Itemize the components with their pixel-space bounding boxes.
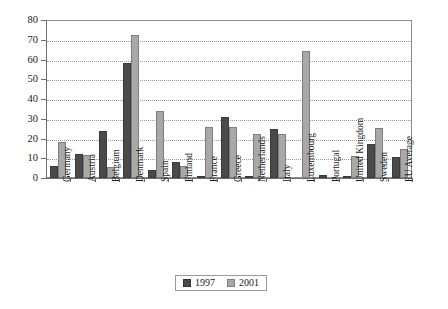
category-label-denmark: Denmark bbox=[135, 147, 145, 182]
y-axis-tick-label: 70 bbox=[0, 34, 38, 45]
category-label-portugal: Portugal bbox=[331, 150, 341, 182]
y-axis-tick-label: 40 bbox=[0, 93, 38, 104]
bar-1997-eu-average bbox=[392, 157, 400, 178]
category-label-united-kingdom: United Kingdom bbox=[355, 118, 365, 182]
bar-1997-netherlands bbox=[245, 176, 253, 178]
legend-item-2001: 2001 bbox=[227, 278, 259, 288]
legend-label-2001: 2001 bbox=[239, 278, 259, 288]
y-axis-tick-label: 20 bbox=[0, 133, 38, 144]
bar-1997-united-kingdom bbox=[343, 176, 351, 178]
legend-swatch-1997 bbox=[183, 279, 191, 287]
bar-1997-belgium bbox=[99, 131, 107, 178]
y-axis-tick-label: 80 bbox=[0, 14, 38, 25]
category-label-netherlands: Netherlands bbox=[257, 136, 267, 182]
y-axis-tick-label: 60 bbox=[0, 54, 38, 65]
category-label-finland: Finland bbox=[184, 153, 194, 182]
legend-item-1997: 1997 bbox=[183, 278, 215, 288]
category-label-austria: Austria bbox=[87, 154, 97, 182]
y-axis-tick-label: 0 bbox=[0, 172, 38, 183]
bar-chart: 01020304050607080 GermanyAustriaBelgiumD… bbox=[0, 0, 448, 309]
category-label-spain: Spain bbox=[160, 160, 170, 182]
bar-1997-greece bbox=[221, 117, 229, 178]
category-label-germany: Germany bbox=[62, 147, 72, 182]
bar-1997-spain bbox=[148, 170, 156, 178]
bar-1997-italy bbox=[270, 129, 278, 178]
legend-label-1997: 1997 bbox=[195, 278, 215, 288]
category-label-greece: Greece bbox=[233, 155, 243, 182]
bar-1997-austria bbox=[75, 154, 83, 178]
y-axis-tick-label: 50 bbox=[0, 73, 38, 84]
category-label-france: France bbox=[209, 156, 219, 182]
y-axis-tick-label: 30 bbox=[0, 113, 38, 124]
bar-1997-germany bbox=[50, 166, 58, 178]
category-label-eu-average: EU Average bbox=[404, 136, 414, 182]
chart-legend: 19972001 bbox=[175, 275, 267, 291]
bar-1997-denmark bbox=[123, 63, 131, 178]
y-axis-tick-label: 10 bbox=[0, 152, 38, 163]
bar-1997-finland bbox=[172, 162, 180, 178]
category-label-italy: Italy bbox=[282, 165, 292, 182]
bar-1997-france bbox=[197, 176, 205, 178]
legend-swatch-2001 bbox=[227, 279, 235, 287]
category-label-sweden: Sweden bbox=[379, 152, 389, 182]
category-label-luxembourg: Luxembourg bbox=[306, 133, 316, 182]
bar-1997-portugal bbox=[319, 175, 327, 178]
category-label-belgium: Belgium bbox=[111, 149, 121, 182]
bar-1997-sweden bbox=[367, 144, 375, 178]
